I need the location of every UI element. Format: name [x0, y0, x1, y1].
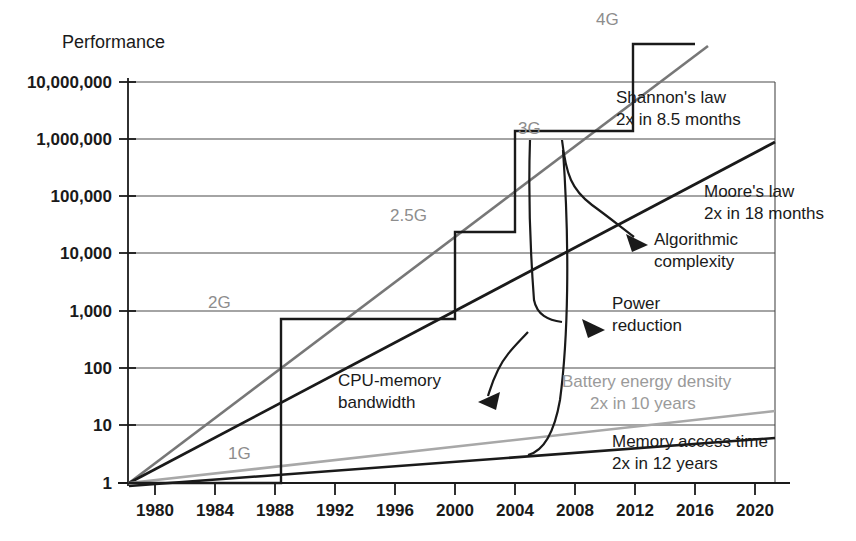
y-axis-title: Performance [62, 32, 165, 52]
x-tick-label-2016: 2016 [666, 501, 724, 520]
y-tick-label-1000: 1,000 [0, 302, 112, 321]
x-tick-label-2000: 2000 [426, 501, 484, 520]
y-tick-label-1: 1 [0, 474, 112, 493]
arrowhead-algorithmic-complexity [626, 234, 648, 252]
generation-label-3g: 3G [518, 119, 541, 138]
generation-label-2g: 2G [208, 293, 231, 312]
x-tick-label-2008: 2008 [546, 501, 604, 520]
generation-label-1g: 1G [228, 444, 251, 463]
x-tick-label-2020: 2020 [726, 501, 784, 520]
annotation-shannons-law-title: Shannon's law [616, 88, 726, 107]
y-tick-label-10000000: 10,000,000 [0, 73, 112, 92]
annotation-algorithmic-complexity-line2: complexity [654, 252, 734, 271]
annotation-moores-law-rate: 2x in 18 months [704, 204, 824, 223]
annotation-power-reduction-line1: Power [612, 294, 660, 313]
x-tick-label-1984: 1984 [186, 501, 244, 520]
annotation-memory-access-time-title: Memory access time [612, 432, 768, 451]
x-tick-label-1988: 1988 [246, 501, 304, 520]
y-tick-label-1000000: 1,000,000 [0, 130, 112, 149]
leader-line-cpu-memory-bandwidth-branch [488, 332, 528, 396]
annotation-algorithmic-complexity-line1: Algorithmic [654, 230, 738, 249]
y-tick-label-100000: 100,000 [0, 187, 112, 206]
x-tick-marks [155, 483, 755, 495]
arrowhead-power-reduction [582, 319, 605, 338]
annotation-battery-energy-density-rate: 2x in 10 years [590, 394, 696, 413]
annotation-shannons-law-rate: 2x in 8.5 months [616, 110, 741, 129]
generation-label-4g: 4G [596, 10, 619, 29]
x-tick-label-1996: 1996 [366, 501, 424, 520]
chart-figure: Performance 10,000,000 1,000,000 100,000… [0, 0, 856, 541]
generation-label-25g: 2.5G [390, 206, 427, 225]
y-tick-label-100: 100 [0, 359, 112, 378]
annotation-battery-energy-density-title: Battery energy density [562, 372, 731, 391]
x-tick-label-2004: 2004 [486, 501, 544, 520]
y-tick-label-10: 10 [0, 416, 112, 435]
series-step-cellular-generations [129, 44, 695, 483]
annotation-power-reduction-line2: reduction [612, 316, 682, 335]
x-tick-label-1992: 1992 [306, 501, 364, 520]
annotation-cpu-memory-bandwidth-line2: bandwidth [338, 393, 416, 412]
annotation-cpu-memory-bandwidth-line1: CPU-memory [338, 371, 441, 390]
x-tick-label-1980: 1980 [126, 501, 184, 520]
x-tick-label-2012: 2012 [606, 501, 664, 520]
annotation-moores-law-title: Moore's law [704, 182, 794, 201]
annotation-memory-access-time-rate: 2x in 12 years [612, 454, 718, 473]
y-tick-label-10000: 10,000 [0, 244, 112, 263]
